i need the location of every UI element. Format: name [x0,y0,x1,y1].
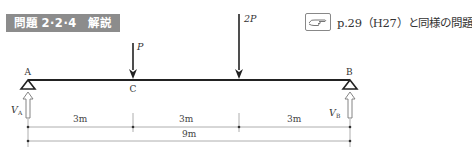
load-label-2p: 2P [243,13,257,24]
dimension-label-c2p: 3m [179,114,194,124]
reaction-arrow-a [23,92,33,118]
point-label-a: A [24,67,32,77]
support-b-icon [343,80,357,89]
point-label-b: B [346,67,353,77]
reaction-arrow-b [345,92,355,118]
dimension-label-ac: 3m [73,114,88,124]
dimension-label-total: 9m [182,129,197,139]
support-a-icon [21,80,35,89]
reaction-label-va: VA [11,104,23,116]
load-label-p: P [136,41,144,52]
load-arrow-p [129,43,137,79]
dimension-label-2pb: 3m [287,114,302,124]
reaction-label-vb: VB [329,107,341,119]
point-label-c: C [130,84,137,94]
load-arrow-2p [235,14,243,79]
